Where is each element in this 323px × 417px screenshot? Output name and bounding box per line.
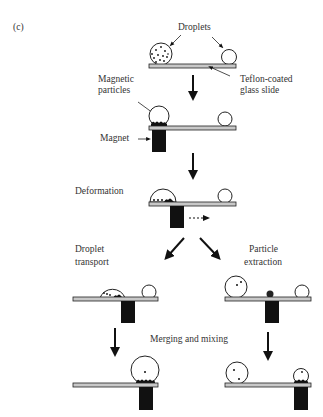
magnet-movement-arrowhead (203, 215, 210, 221)
slide (73, 297, 158, 301)
merged-droplet (131, 356, 159, 384)
stage-mixed (225, 362, 311, 410)
label-transport-line1: Droplet (75, 244, 104, 254)
droplet-empty (218, 189, 232, 203)
flow-arrow-branch-left (167, 238, 184, 257)
label-particles-line1: Magnetic (98, 74, 134, 84)
slide (225, 383, 311, 387)
label-extraction-line2: extraction (244, 257, 282, 267)
stage-particle-extraction (225, 276, 311, 323)
stage-droplet-transport (73, 285, 158, 323)
extracted-particle-droplet (267, 291, 274, 298)
slide (149, 202, 236, 206)
panel-label: (c) (13, 22, 24, 33)
label-magnet: Magnet (100, 133, 129, 143)
magnet (265, 301, 279, 323)
droplet-manipulation-diagram: (c) Droplets Teflon-coated glass slide M… (0, 0, 323, 417)
label-extraction-line1: Particle (249, 244, 278, 254)
label-deformation: Deformation (75, 186, 124, 196)
magnet (170, 206, 184, 228)
label-droplets: Droplets (178, 22, 211, 32)
magnet (121, 301, 135, 323)
slide (149, 126, 236, 130)
stage-initial: Droplets Teflon-coated glass slide (149, 22, 293, 95)
magnet (139, 387, 153, 410)
stage-merged (73, 356, 159, 410)
stage-magnet-applied: Magnetic particles Magnet (98, 74, 236, 152)
label-slide-line1: Teflon-coated (240, 74, 293, 84)
pointer-arrow-droplet-left (171, 35, 181, 45)
residual-droplet (226, 362, 248, 384)
label-transport-line2: transport (75, 257, 109, 267)
stage-deformation: Deformation (75, 186, 236, 228)
droplet-empty (222, 50, 237, 65)
slide (225, 297, 311, 301)
label-merging-mixing: Merging and mixing (150, 334, 228, 344)
magnet (152, 130, 166, 152)
teflon-glass-slide (149, 64, 236, 68)
slide (73, 383, 158, 387)
droplet-empty (218, 112, 232, 126)
label-slide-line2: glass slide (240, 85, 279, 95)
pointer-arrow-droplet-right (212, 37, 222, 47)
magnet (294, 387, 308, 410)
flow-arrow-branch-right (200, 238, 218, 257)
droplet-residual (225, 276, 247, 298)
label-particles-line2: particles (98, 85, 130, 95)
